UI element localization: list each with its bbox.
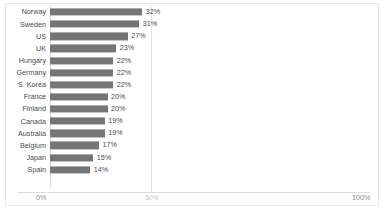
- bar-row: Germany22%: [0, 67, 384, 79]
- x-tick-label-100: 100%: [352, 194, 370, 201]
- category-label: Sweden: [0, 21, 46, 28]
- bar-chart: Norway32%Sweden31%US27%UK23%Hungary22%Ge…: [0, 0, 384, 215]
- bar-and-value: 20%: [50, 105, 125, 112]
- value-label: 27%: [131, 33, 145, 40]
- bar-row: Belgium17%: [0, 139, 384, 151]
- bar-and-value: 14%: [50, 166, 108, 173]
- category-label: Spain: [0, 166, 46, 173]
- bar-row: Finland20%: [0, 103, 384, 115]
- bar: [50, 93, 108, 100]
- value-label: 19%: [108, 130, 122, 137]
- bar-row: Hungary22%: [0, 55, 384, 67]
- bar: [50, 166, 90, 173]
- bar: [50, 69, 113, 76]
- bar-and-value: 19%: [50, 118, 123, 125]
- bar-and-value: 32%: [50, 8, 160, 15]
- value-label: 22%: [117, 69, 131, 76]
- category-label: Germany: [0, 69, 46, 76]
- category-label: S. Korea: [0, 81, 46, 88]
- bar: [50, 154, 93, 161]
- bar-row: Norway32%: [0, 6, 384, 18]
- bar-and-value: 23%: [50, 45, 134, 52]
- bar-and-value: 15%: [50, 154, 111, 161]
- category-label: Australia: [0, 130, 46, 137]
- bar-and-value: 22%: [50, 57, 131, 64]
- x-tick-label-0: 0%: [36, 194, 46, 201]
- value-label: 19%: [108, 118, 122, 125]
- bar-row: Canada19%: [0, 115, 384, 127]
- bar: [50, 45, 116, 52]
- bar-row: S. Korea22%: [0, 79, 384, 91]
- bar-row: Japan15%: [0, 152, 384, 164]
- bar: [50, 21, 139, 28]
- bar-row: Sweden31%: [0, 18, 384, 30]
- bar-and-value: 31%: [50, 21, 157, 28]
- value-label: 17%: [102, 142, 116, 149]
- bar-rows: Norway32%Sweden31%US27%UK23%Hungary22%Ge…: [0, 6, 384, 188]
- bar: [50, 8, 142, 15]
- bar-row: France20%: [0, 91, 384, 103]
- bar-and-value: 22%: [50, 69, 131, 76]
- bar-row: UK23%: [0, 42, 384, 54]
- value-label: 32%: [146, 8, 160, 15]
- value-label: 31%: [143, 21, 157, 28]
- category-label: Japan: [0, 154, 46, 161]
- value-label: 23%: [120, 45, 134, 52]
- bar-row: Australia19%: [0, 127, 384, 139]
- category-label: Canada: [0, 118, 46, 125]
- value-label: 22%: [117, 57, 131, 64]
- bar-and-value: 27%: [50, 33, 146, 40]
- category-label: Norway: [0, 8, 46, 15]
- category-label: France: [0, 93, 46, 100]
- value-label: 20%: [111, 93, 125, 100]
- x-axis-mid-tick-mark: [151, 188, 152, 193]
- bar: [50, 142, 99, 149]
- x-tick-label-50: 50%: [145, 194, 158, 201]
- category-label: Hungary: [0, 57, 46, 64]
- value-label: 20%: [111, 105, 125, 112]
- value-label: 15%: [97, 154, 111, 161]
- value-label: 14%: [94, 166, 108, 173]
- bar: [50, 33, 128, 40]
- category-label: US: [0, 33, 46, 40]
- value-label: 22%: [117, 81, 131, 88]
- bar: [50, 105, 108, 112]
- category-label: UK: [0, 45, 46, 52]
- category-label: Belgium: [0, 142, 46, 149]
- bar: [50, 81, 113, 88]
- bar-and-value: 19%: [50, 130, 123, 137]
- category-label: Finland: [0, 105, 46, 112]
- bar: [50, 118, 105, 125]
- bar-and-value: 22%: [50, 81, 131, 88]
- bar-and-value: 17%: [50, 142, 117, 149]
- bar-row: US27%: [0, 30, 384, 42]
- bar: [50, 130, 105, 137]
- x-axis-line: [18, 192, 370, 193]
- bar-row: Spain14%: [0, 164, 384, 176]
- bar: [50, 57, 113, 64]
- bar-and-value: 20%: [50, 93, 125, 100]
